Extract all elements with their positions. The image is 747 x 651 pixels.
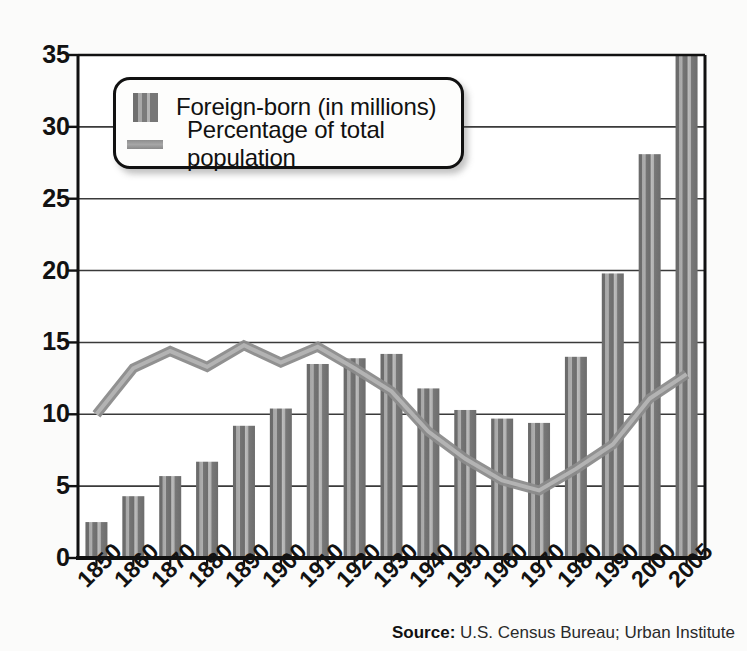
legend-entry-percentage: Percentage of total population [133,126,461,162]
legend-label-percentage: Percentage of total population [187,116,461,172]
chart-legend: Foreign-born (in millions) Percentage of… [113,77,464,169]
source-note: Source: U.S. Census Bureau; Urban Instit… [392,623,735,643]
legend-bar-swatch-icon [133,93,158,122]
chart-figure: 05101520253035 1850186018701880189019001… [0,0,747,651]
legend-line-swatch-icon [127,140,163,149]
source-text: U.S. Census Bureau; Urban Institute [455,623,735,642]
source-label: Source: [392,623,455,642]
